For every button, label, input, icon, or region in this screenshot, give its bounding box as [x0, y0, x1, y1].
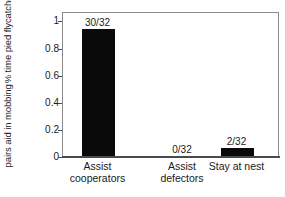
- category-label-line: defectors: [137, 172, 227, 184]
- category-label-line: cooperators: [53, 172, 143, 184]
- x-axis-line: [62, 156, 280, 158]
- bar[interactable]: [82, 29, 115, 156]
- category-label-line: Assist: [53, 160, 143, 172]
- bar-value-label: 30/32: [68, 17, 128, 28]
- y-axis-title: % time pied flycatcher pairs aid in mobb…: [2, 0, 36, 160]
- y-axis-tick-label: 0.4: [33, 98, 59, 108]
- x-axis-category-label: Assistcooperators: [53, 160, 143, 184]
- y-axis-title-line-1: % time pied flycatcher: [2, 0, 13, 83]
- y-axis-tick-label: 0.6: [33, 71, 59, 81]
- x-axis-category-label: Stay at nest: [192, 160, 282, 172]
- y-axis-tick-label: 1: [33, 16, 59, 26]
- bar-value-label: 0/32: [152, 144, 212, 155]
- category-label-line: Stay at nest: [192, 160, 282, 172]
- bar[interactable]: [221, 148, 254, 156]
- bar-chart-figure: % time pied flycatcher pairs aid in mobb…: [0, 0, 285, 197]
- y-axis-tick-label: 0.2: [33, 125, 59, 135]
- bar-value-label: 2/32: [207, 136, 267, 147]
- y-axis-title-line-2: pairs aid in mobbing: [2, 84, 13, 167]
- y-axis-tick-label: 0.8: [33, 44, 59, 54]
